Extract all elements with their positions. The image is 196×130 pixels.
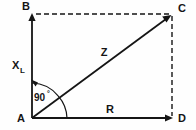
reactance-label: X: [12, 59, 20, 71]
resistance-label: R: [106, 103, 114, 115]
angle-degree-symbol: °: [47, 90, 50, 97]
impedance-vector-line: [32, 19, 166, 118]
vertex-label-b: B: [22, 0, 30, 12]
vertex-label-a: A: [17, 112, 25, 124]
vertex-label-d: D: [178, 112, 186, 124]
angle-label: 90: [34, 92, 46, 103]
angle-arc-lower: [58, 96, 67, 118]
phasor-diagram-svg: B C A D X L R Z 90 °: [0, 0, 196, 130]
reactance-vector-arrowhead: [28, 13, 35, 21]
vertex-label-c: C: [178, 2, 186, 14]
impedance-phasor-figure: B C A D X L R Z 90 °: [0, 0, 196, 130]
reactance-label-subscript: L: [20, 66, 25, 75]
impedance-label: Z: [101, 46, 108, 58]
